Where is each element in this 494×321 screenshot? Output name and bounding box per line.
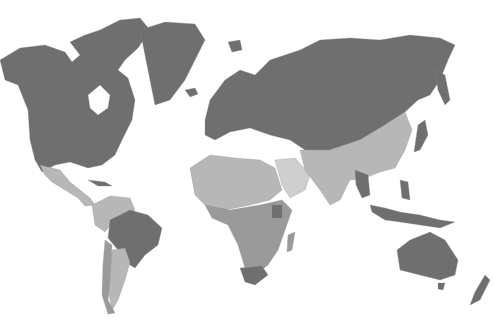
region-australia[interactable] <box>397 232 458 280</box>
region-new-zealand[interactable] <box>470 275 490 305</box>
region-japan[interactable] <box>414 120 428 152</box>
region-mexico-central-america[interactable] <box>40 165 95 206</box>
region-north-africa[interactable] <box>190 155 282 210</box>
region-iceland[interactable] <box>185 88 198 97</box>
region-indonesia[interactable] <box>370 205 455 228</box>
region-kenya[interactable] <box>272 205 282 218</box>
region-north-america[interactable] <box>0 18 150 172</box>
region-tasmania[interactable] <box>438 283 445 290</box>
region-south-africa[interactable] <box>240 266 268 285</box>
world-map <box>0 0 494 321</box>
region-kamchatka[interactable] <box>435 70 450 105</box>
region-philippines[interactable] <box>400 180 410 200</box>
region-svalbard[interactable] <box>228 40 242 52</box>
region-caribbean[interactable] <box>88 180 112 186</box>
region-madagascar[interactable] <box>287 232 295 252</box>
